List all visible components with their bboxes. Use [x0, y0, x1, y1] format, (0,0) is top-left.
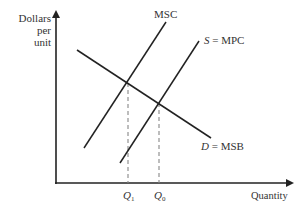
q0-label: Q0	[154, 189, 166, 203]
mpc-label: S = MPC	[204, 34, 244, 46]
msc-label: MSC	[154, 8, 177, 20]
msc-curve	[84, 22, 166, 148]
msb-label: D = MSB	[200, 140, 244, 152]
q1-label: Q1	[123, 189, 135, 203]
y-axis-label-line3: unit	[34, 36, 51, 48]
x-axis-label: Quantity	[251, 190, 288, 201]
mpc-supply-curve	[120, 41, 199, 163]
y-axis-label-line2: per	[37, 24, 51, 36]
externality-diagram: Dollars per unit Quantity MSC S = MPC D …	[0, 0, 306, 207]
y-axis-label-line1: Dollars	[19, 12, 51, 24]
